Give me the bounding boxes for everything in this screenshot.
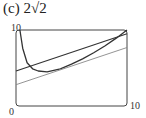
plot-area	[0, 0, 146, 118]
lower-line	[16, 48, 127, 85]
series-layer	[16, 30, 127, 85]
upper-line	[16, 34, 127, 71]
